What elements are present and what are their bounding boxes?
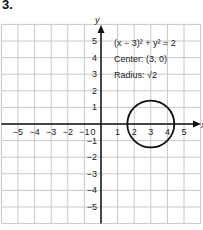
y-tick-label: −4	[87, 185, 97, 195]
x-tick-label: 5	[181, 127, 186, 137]
x-tick-label: 3	[148, 127, 153, 137]
x-tick-label: −4	[29, 127, 39, 137]
x-tick-label: 2	[132, 127, 137, 137]
x-tick-label: −2	[63, 127, 73, 137]
radius-label: Radius: √2	[114, 70, 157, 80]
y-tick-label: −1	[87, 136, 97, 146]
y-tick-label: 2	[92, 86, 97, 96]
x-tick-label: 1	[115, 127, 120, 137]
annotations: (x − 3)² + y² = 2 Center: (3, 0) Radius:…	[94, 15, 203, 130]
x-axis-arrow-icon	[193, 121, 201, 128]
x-tick-label: 4	[165, 127, 170, 137]
y-tick-label: 5	[92, 36, 97, 46]
y-tick-label: −5	[87, 202, 97, 212]
y-tick-label: 4	[92, 53, 97, 63]
coordinate-plane: −5−4−3−2−101234554321−1−2−3−4−5 (x − 3)²…	[0, 0, 203, 230]
y-axis-arrow-icon	[98, 25, 105, 33]
y-tick-label: −3	[87, 169, 97, 179]
x-axis-label: x	[200, 120, 203, 130]
x-tick-label: −5	[13, 127, 23, 137]
y-tick-label: 1	[92, 102, 97, 112]
y-tick-label: 3	[92, 69, 97, 79]
y-axis-label: y	[94, 15, 100, 25]
x-tick-label: −3	[46, 127, 56, 137]
center-label: Center: (3, 0)	[114, 54, 167, 64]
axes	[1, 25, 201, 224]
equation-label: (x − 3)² + y² = 2	[114, 38, 176, 48]
y-tick-label: −2	[87, 152, 97, 162]
